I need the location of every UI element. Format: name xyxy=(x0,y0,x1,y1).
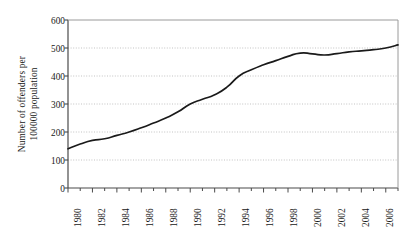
plot-area xyxy=(0,0,411,234)
data-series-line xyxy=(68,45,398,149)
x-axis-ticks xyxy=(68,188,398,193)
gridlines xyxy=(68,48,398,160)
chart-container: Number of offenders per 100000 populatio… xyxy=(0,0,411,234)
